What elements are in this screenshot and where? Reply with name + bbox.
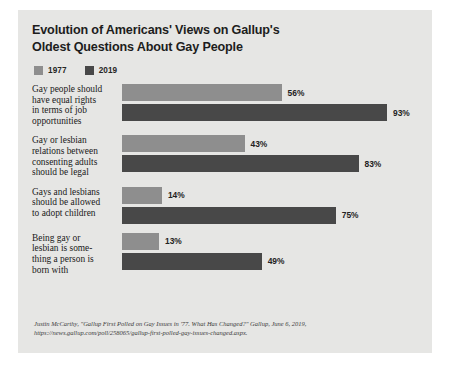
legend-label-2019: 2019 xyxy=(99,66,118,75)
row-bars: 56% 93% xyxy=(122,84,418,121)
category-label-line: in terms of job xyxy=(32,105,87,115)
chart-title-line-2: Oldest Questions About Gay People xyxy=(32,39,332,56)
category-label-line: Gay or lesbian xyxy=(32,135,87,145)
category-label-line: opportunities xyxy=(32,116,81,126)
bar-line-1977: 14% xyxy=(122,187,418,204)
category-label: Being gay or lesbian is some- thing a pe… xyxy=(32,233,122,275)
row-bars: 13% 49% xyxy=(122,233,418,270)
category-label-line: should be allowed xyxy=(32,197,100,207)
row-bars: 43% 83% xyxy=(122,135,418,172)
bar-value-1977: 13% xyxy=(165,236,182,246)
chart-card: Evolution of Americans' Views on Gallup'… xyxy=(18,10,432,353)
bar-value-2019: 75% xyxy=(342,210,359,220)
chart-row: Gay or lesbian relations between consent… xyxy=(32,135,418,177)
category-label: Gay people should have equal rights in t… xyxy=(32,84,122,126)
bar-2019 xyxy=(122,253,262,270)
category-label-line: lesbian is some- xyxy=(32,243,92,253)
legend-item-2019: 2019 xyxy=(85,66,118,75)
bar-line-1977: 13% xyxy=(122,233,418,250)
bar-1977 xyxy=(122,84,282,101)
legend-swatch-1977 xyxy=(34,66,43,75)
bar-2019 xyxy=(122,155,359,172)
bar-value-2019: 83% xyxy=(365,159,382,169)
bar-1977 xyxy=(122,233,159,250)
category-label-line: Being gay or xyxy=(32,233,80,243)
chart-row: Gays and lesbians should be allowed to a… xyxy=(32,187,418,224)
chart-rows: Gay people should have equal rights in t… xyxy=(32,84,418,275)
chart-title: Evolution of Americans' Views on Gallup'… xyxy=(32,22,332,55)
category-label: Gays and lesbians should be allowed to a… xyxy=(32,187,122,219)
chart-page: Evolution of Americans' Views on Gallup'… xyxy=(0,0,451,374)
category-label-line: Gay people should xyxy=(32,84,102,94)
bar-1977 xyxy=(122,135,245,152)
category-label-line: consenting adults xyxy=(32,157,97,167)
category-label: Gay or lesbian relations between consent… xyxy=(32,135,122,177)
bar-1977 xyxy=(122,187,162,204)
category-label-line: should be legal xyxy=(32,167,89,177)
chart-legend: 1977 2019 xyxy=(32,66,418,75)
bar-value-2019: 93% xyxy=(393,108,410,118)
bar-2019 xyxy=(122,104,387,121)
category-label-line: thing a person is xyxy=(32,254,94,264)
chart-title-line-1: Evolution of Americans' Views on Gallup'… xyxy=(32,22,332,39)
source-line-1: Justin McCarthy, "Gallup First Polled on… xyxy=(34,319,422,328)
bar-2019 xyxy=(122,207,336,224)
chart-row: Gay people should have equal rights in t… xyxy=(32,84,418,126)
bar-line-2019: 75% xyxy=(122,207,418,224)
legend-label-1977: 1977 xyxy=(48,66,67,75)
chart-row: Being gay or lesbian is some- thing a pe… xyxy=(32,233,418,275)
bar-value-1977: 56% xyxy=(288,88,305,98)
bar-value-2019: 49% xyxy=(268,256,285,266)
source-citation: Justin McCarthy, "Gallup First Polled on… xyxy=(34,319,422,337)
bar-line-2019: 83% xyxy=(122,155,418,172)
bar-line-2019: 93% xyxy=(122,104,418,121)
bar-value-1977: 14% xyxy=(168,190,185,200)
bar-value-1977: 43% xyxy=(251,139,268,149)
bar-line-1977: 43% xyxy=(122,135,418,152)
category-label-line: have equal rights xyxy=(32,95,96,105)
legend-item-1977: 1977 xyxy=(34,66,67,75)
category-label-line: Gays and lesbians xyxy=(32,187,100,197)
category-label-line: born with xyxy=(32,265,68,275)
legend-swatch-2019 xyxy=(85,66,94,75)
category-label-line: relations between xyxy=(32,146,98,156)
source-line-2: https://news.gallup.com/poll/258065/gall… xyxy=(34,328,422,337)
category-label-line: to adopt children xyxy=(32,208,96,218)
bar-line-1977: 56% xyxy=(122,84,418,101)
row-bars: 14% 75% xyxy=(122,187,418,224)
bar-line-2019: 49% xyxy=(122,253,418,270)
